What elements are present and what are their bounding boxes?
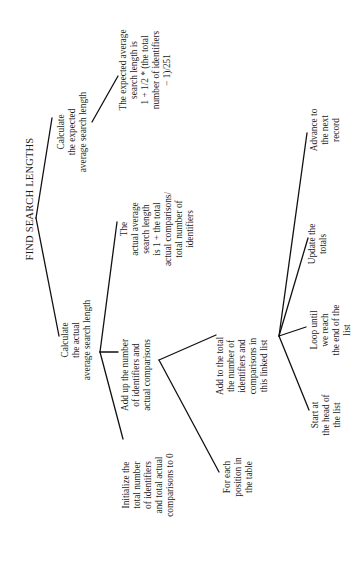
- actual-formula-label: The actual average search length is 1 + …: [119, 192, 196, 266]
- tree-diagram: FIND SEARCH LENGTHS Calculate the expect…: [0, 0, 361, 571]
- calc-actual-label: Calculate the actual average search leng…: [60, 300, 93, 381]
- diagram-title: FIND SEARCH LENGTHS: [24, 138, 35, 261]
- edge-add-to-total-advance: [279, 133, 307, 336]
- add-to-total-label: Add to the total the number of identifie…: [215, 337, 270, 395]
- edge-add-up-add-to-total: [159, 335, 216, 360]
- edge-root-calc-actual: [36, 218, 59, 336]
- initialize-label: Initialize the total number of identifie…: [121, 453, 176, 517]
- for-each-label: For each position in the table: [222, 457, 255, 497]
- edge-add-to-total-start-head: [279, 336, 309, 410]
- add-up-label: Add up the number of identifiers and act…: [120, 339, 153, 411]
- update-totals-label: Update the totals: [307, 224, 329, 265]
- connector-lines: [0, 0, 361, 571]
- edge-add-to-total-update-totals: [279, 238, 308, 336]
- edge-calc-actual-formula: [100, 222, 117, 352]
- calc-expected-label: Calculate the expected average search le…: [56, 92, 89, 173]
- expected-formula-label: The expected average search length is 1 …: [118, 29, 173, 110]
- loop-until-label: Loop until we reach the end of the list: [309, 305, 353, 356]
- edge-add-to-total-loop-until: [279, 327, 306, 336]
- edge-root-calc-expected: [36, 118, 52, 218]
- advance-label: Advance to the next record: [309, 109, 342, 152]
- start-head-label: Start at the head of the list: [310, 394, 343, 435]
- edge-calc-expected-formula: [92, 76, 118, 122]
